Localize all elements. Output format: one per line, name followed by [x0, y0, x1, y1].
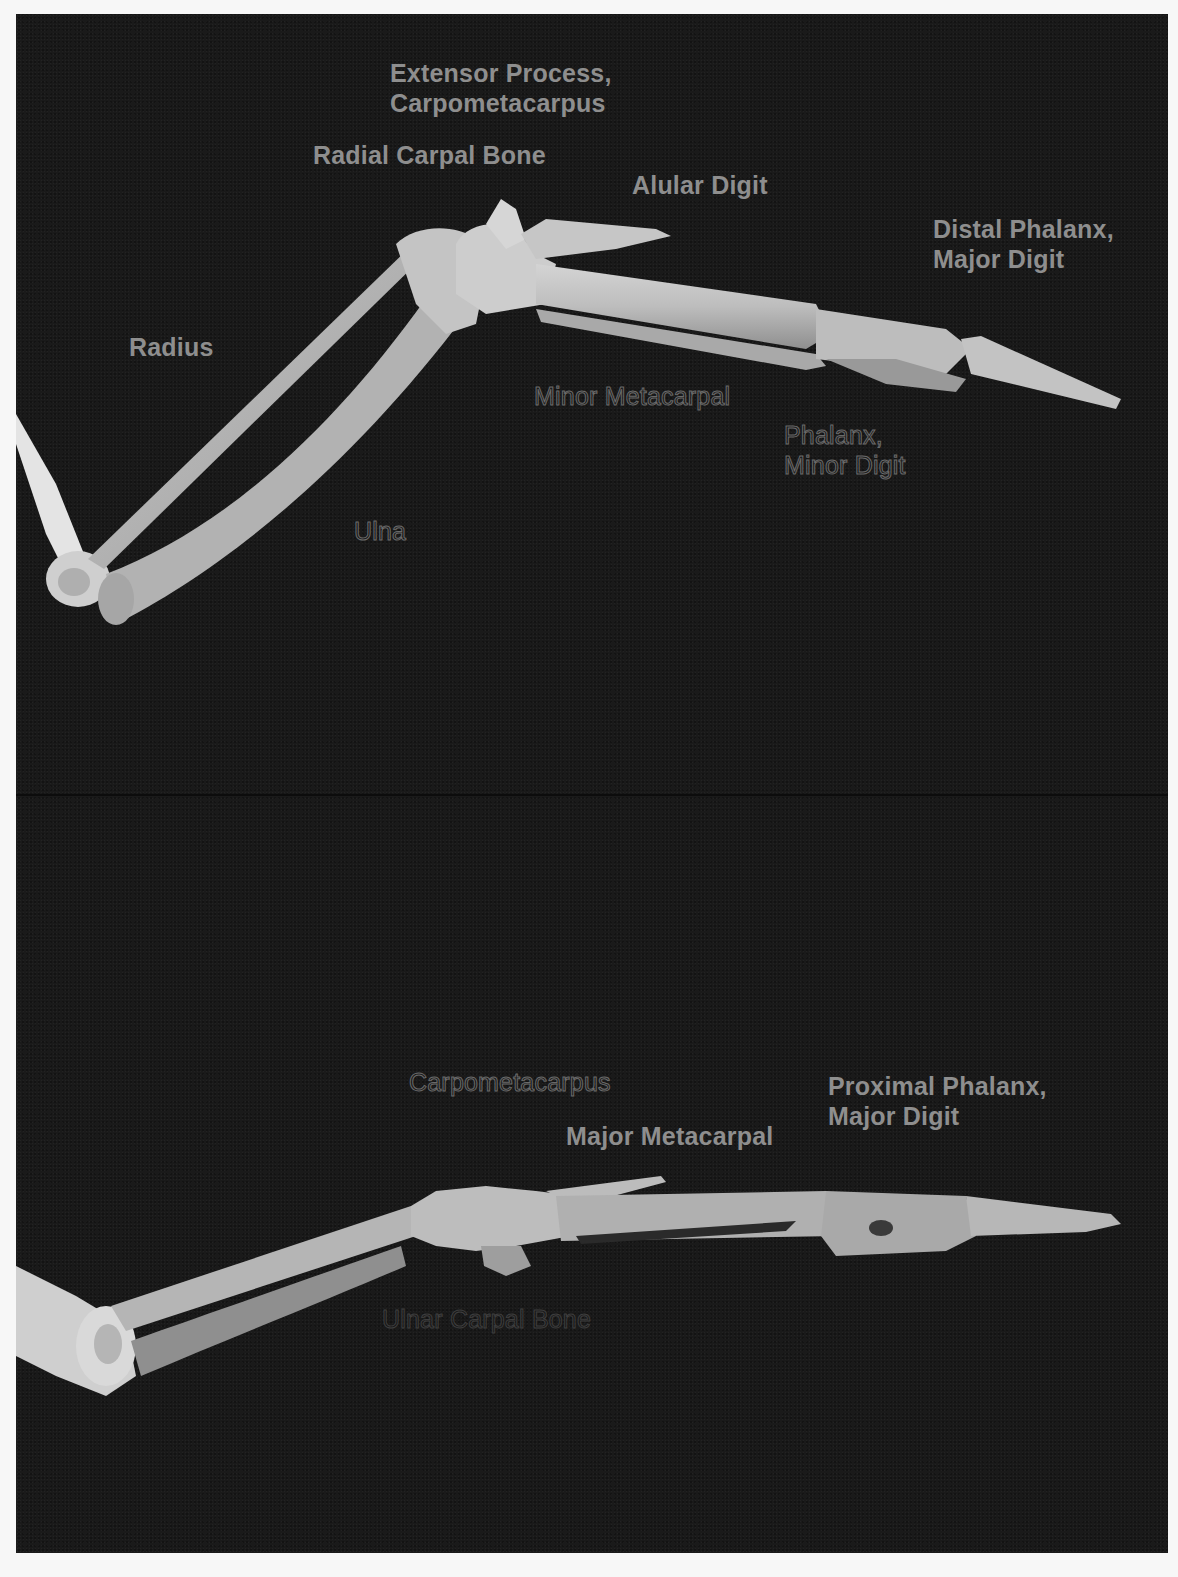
- alular-digit-bone: [521, 219, 671, 259]
- label-proximal-phalanx-major-digit: Proximal Phalanx, Major Digit: [828, 1071, 1047, 1131]
- label-alular-digit: Alular Digit: [632, 170, 768, 200]
- distal-phalanx-bone: [961, 336, 1121, 409]
- bottom-panel: Carpometacarpus Major Metacarpal Proxima…: [16, 796, 1168, 1553]
- figure-frame: Extensor Process, Carpometacarpus Radial…: [16, 14, 1168, 1553]
- label-ulnar-carpal-bone: Ulnar Carpal Bone: [382, 1304, 591, 1334]
- top-panel: Extensor Process, Carpometacarpus Radial…: [16, 14, 1168, 795]
- label-carpometacarpus: Carpometacarpus: [409, 1067, 611, 1097]
- label-radial-carpal-bone: Radial Carpal Bone: [313, 140, 546, 170]
- label-ulna: Ulna: [354, 516, 406, 546]
- label-extensor-process: Extensor Process, Carpometacarpus: [390, 58, 612, 118]
- label-minor-metacarpal: Minor Metacarpal: [534, 381, 730, 411]
- label-radius: Radius: [129, 332, 214, 362]
- label-phalanx-minor-digit: Phalanx, Minor Digit: [784, 420, 906, 480]
- ulnar-carpal-bone: [481, 1246, 531, 1276]
- label-major-metacarpal: Major Metacarpal: [566, 1121, 773, 1151]
- distal-phalanx-bone: [966, 1196, 1121, 1236]
- wing-skeleton-side-view: [16, 796, 1168, 1553]
- label-distal-phalanx-major-digit: Distal Phalanx, Major Digit: [933, 214, 1114, 274]
- proximal-phalanx-bone: [821, 1191, 976, 1256]
